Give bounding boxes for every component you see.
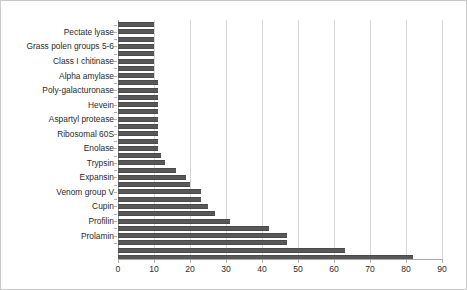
category-tick-mark bbox=[114, 134, 117, 135]
category-tick-mark bbox=[114, 192, 117, 193]
bar-row bbox=[118, 95, 442, 100]
bar[interactable] bbox=[118, 182, 190, 187]
bar[interactable] bbox=[118, 95, 158, 100]
category-label: Alpha amylase bbox=[2, 72, 114, 80]
bar[interactable] bbox=[118, 204, 208, 209]
x-tick-mark-10 bbox=[154, 260, 155, 263]
bar[interactable] bbox=[118, 124, 158, 129]
bar[interactable] bbox=[118, 59, 154, 64]
bar[interactable] bbox=[118, 168, 176, 173]
bar-row bbox=[118, 37, 442, 42]
bar[interactable] bbox=[118, 146, 158, 151]
bar[interactable] bbox=[118, 153, 161, 158]
x-tick-label-70: 70 bbox=[358, 264, 382, 274]
category-label: Venom group V bbox=[2, 188, 114, 196]
x-axis-line bbox=[118, 259, 443, 260]
bar[interactable] bbox=[118, 109, 158, 114]
category-tick-mark bbox=[114, 163, 117, 164]
bar-row bbox=[118, 88, 442, 93]
bar-row bbox=[118, 51, 442, 56]
x-tick-label-20: 20 bbox=[178, 264, 202, 274]
bar[interactable] bbox=[118, 211, 215, 216]
bar[interactable] bbox=[118, 44, 154, 49]
category-label: Profilin bbox=[2, 217, 114, 225]
bar-chart-figure: Pectate lyaseGrass polen groups 5-6Class… bbox=[0, 0, 467, 290]
bar-row bbox=[118, 102, 442, 107]
category-label: Ribosomal 60S bbox=[2, 130, 114, 138]
category-tick-mark bbox=[114, 97, 117, 98]
category-tick-mark bbox=[114, 177, 117, 178]
category-tick-mark bbox=[114, 228, 117, 229]
category-tick-mark bbox=[114, 68, 117, 69]
bar[interactable] bbox=[118, 233, 287, 238]
bar-row bbox=[118, 233, 442, 238]
bar-row bbox=[118, 80, 442, 85]
bar[interactable] bbox=[118, 219, 230, 224]
category-label: Pectate lyase bbox=[2, 28, 114, 36]
x-tick-mark-0 bbox=[118, 260, 119, 263]
x-tick-label-10: 10 bbox=[142, 264, 166, 274]
bar[interactable] bbox=[118, 197, 201, 202]
bar[interactable] bbox=[118, 66, 154, 71]
bar[interactable] bbox=[118, 51, 154, 56]
bar-row bbox=[118, 139, 442, 144]
gridline-90 bbox=[442, 20, 443, 260]
bar[interactable] bbox=[118, 160, 165, 165]
category-label: Poly-galacturonase bbox=[2, 86, 114, 94]
category-tick-mark bbox=[114, 76, 117, 77]
category-tick-mark bbox=[114, 221, 117, 222]
bar-row bbox=[118, 44, 442, 49]
category-label: Cupin bbox=[2, 202, 114, 210]
x-tick-mark-30 bbox=[226, 260, 227, 263]
bar[interactable] bbox=[118, 80, 158, 85]
plot-area bbox=[118, 20, 442, 260]
category-tick-mark bbox=[114, 83, 117, 84]
bar-row bbox=[118, 131, 442, 136]
category-tick-mark bbox=[114, 156, 117, 157]
x-tick-label-40: 40 bbox=[250, 264, 274, 274]
category-tick-mark bbox=[114, 54, 117, 55]
category-label: Trypsin bbox=[2, 159, 114, 167]
category-tick-mark bbox=[114, 148, 117, 149]
bar-row bbox=[118, 66, 442, 71]
category-tick-mark bbox=[114, 25, 117, 26]
bar-row bbox=[118, 59, 442, 64]
category-tick-mark bbox=[114, 105, 117, 106]
category-tick-mark bbox=[114, 32, 117, 33]
category-tick-mark bbox=[114, 90, 117, 91]
bar[interactable] bbox=[118, 117, 158, 122]
category-tick-mark bbox=[114, 112, 117, 113]
bar[interactable] bbox=[118, 102, 158, 107]
bar[interactable] bbox=[118, 88, 158, 93]
x-tick-mark-70 bbox=[370, 260, 371, 263]
category-tick-mark bbox=[114, 199, 117, 200]
bar-row bbox=[118, 29, 442, 34]
category-tick-mark bbox=[114, 214, 117, 215]
bar-row bbox=[118, 189, 442, 194]
bar[interactable] bbox=[118, 139, 158, 144]
x-tick-label-30: 30 bbox=[214, 264, 238, 274]
category-axis-labels: Pectate lyaseGrass polen groups 5-6Class… bbox=[1, 20, 114, 260]
x-tick-mark-40 bbox=[262, 260, 263, 263]
category-tick-mark bbox=[114, 206, 117, 207]
bar-row bbox=[118, 175, 442, 180]
x-tick-label-80: 80 bbox=[394, 264, 418, 274]
bar[interactable] bbox=[118, 175, 186, 180]
bar-row bbox=[118, 204, 442, 209]
x-tick-label-0: 0 bbox=[106, 264, 130, 274]
bar-row bbox=[118, 160, 442, 165]
bar[interactable] bbox=[118, 240, 287, 245]
bar[interactable] bbox=[118, 73, 154, 78]
category-tick-mark bbox=[114, 61, 117, 62]
category-tick-mark bbox=[114, 39, 117, 40]
bar[interactable] bbox=[118, 131, 158, 136]
bar[interactable] bbox=[118, 189, 201, 194]
bar[interactable] bbox=[118, 226, 269, 231]
bar[interactable] bbox=[118, 22, 154, 27]
bar[interactable] bbox=[118, 37, 154, 42]
bar[interactable] bbox=[118, 29, 154, 34]
bar[interactable] bbox=[118, 248, 345, 253]
category-tick-mark bbox=[114, 236, 117, 237]
x-tick-label-90: 90 bbox=[430, 264, 454, 274]
bar-row bbox=[118, 117, 442, 122]
